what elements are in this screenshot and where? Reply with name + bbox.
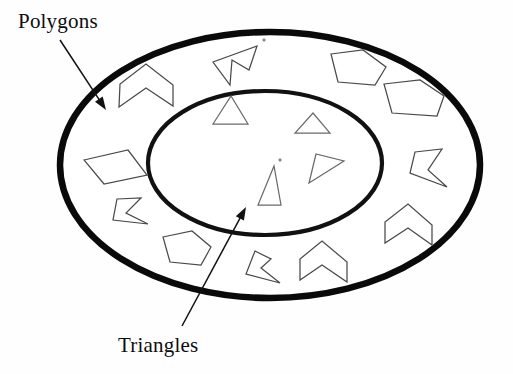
diagram-canvas: Polygons Triangles [0,0,513,374]
label-triangles: Triangles [118,333,198,357]
polygons-leader-line [60,40,101,102]
venn-diagram: Polygons Triangles [0,0,513,374]
inner-set-triangles-ellipse [148,91,382,235]
label-polygons: Polygons [18,9,98,33]
